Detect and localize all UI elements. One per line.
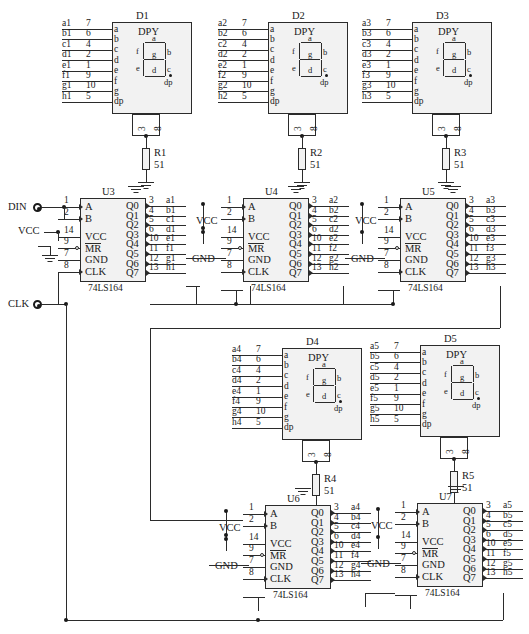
- display-pin-number-D5-6: 6: [394, 352, 399, 362]
- vcc-bus-u6: [226, 511, 227, 551]
- ic-pin-label-U3-B: B: [85, 214, 92, 225]
- display-pin-name-D2-g: g: [270, 87, 275, 97]
- resistor-value-R3: 51: [454, 160, 465, 171]
- ic-pin-label-U7-VCC: VCC: [422, 537, 444, 548]
- ic-pin-lead-U6-CLK: [243, 579, 265, 580]
- segment-label-a: a: [308, 34, 312, 43]
- net-label-g2: g2: [218, 81, 228, 91]
- din-terminal[interactable]: [33, 203, 42, 212]
- gnd-lead-bar-0: [186, 258, 226, 259]
- display-pin-name-D4-b: b: [284, 361, 289, 371]
- u6-data-h: [150, 520, 243, 521]
- clock-edge-arrow-U7: [416, 574, 420, 580]
- display-pin-number-D3-6: 6: [386, 29, 391, 39]
- ic-pin-lead-U6-B: [243, 526, 265, 527]
- display-common-pin-8-D1: 8: [154, 126, 164, 131]
- vcc-label-u4: VCC: [196, 216, 218, 227]
- net-label-c3: c3: [362, 40, 371, 50]
- display-pin-number-D5-4: 4: [394, 363, 399, 373]
- clk-junction-u6: [256, 618, 260, 622]
- ground-symbol-u4-top: [288, 186, 304, 195]
- ic-output-arrow-U7-Q7: [483, 575, 487, 581]
- gnd-label-u7: GND: [367, 559, 390, 570]
- ic-input-arrow-U4-A: [242, 204, 246, 210]
- ic-pin-number-U3-1: 1: [64, 196, 69, 206]
- display-pin-number-D1-5: 5: [86, 92, 91, 102]
- resistor-body-R1[interactable]: [142, 148, 150, 170]
- segment-bar: [313, 369, 314, 385]
- resistor-body-R3[interactable]: [442, 148, 450, 170]
- ic-out-lead-U4-Q7: [309, 273, 349, 274]
- vcc-junction-top-u4: [201, 202, 205, 206]
- ic-input-arrow-U7-B: [416, 521, 420, 527]
- display-pin-number-D3-5: 5: [386, 92, 391, 102]
- clk-bus-junction-bottom: [64, 618, 68, 622]
- ic-part-U4: 74LS164: [251, 284, 286, 294]
- display-pin-name-D2-e: e: [270, 66, 274, 76]
- resistor-wire-bottom-R2: [302, 170, 303, 182]
- vcc-drop-u3: [58, 232, 59, 241]
- clk-row-bottom: [258, 620, 410, 621]
- ic-out-lead-U3-Q7: [146, 273, 186, 274]
- display-common-pin-8-D3: 8: [454, 126, 464, 131]
- segment-label-a: a: [322, 360, 326, 369]
- display-pin-name-D1-f: f: [114, 77, 117, 87]
- display-pin-number-D4-5: 5: [256, 418, 261, 428]
- u5-q7-down: [500, 286, 501, 328]
- display-pin-name-D4-a: a: [284, 351, 288, 361]
- ic-pin-number-U3-14: 14: [64, 226, 74, 236]
- ic-pin-number-U4-7: 7: [227, 249, 232, 259]
- segment-bar: [451, 383, 452, 399]
- net-label-g3: g3: [362, 81, 372, 91]
- u7-clk-h: [395, 595, 417, 596]
- ic-pin-number-U4-8: 8: [227, 261, 232, 271]
- display-pin-number-D1-2: 2: [86, 50, 91, 60]
- clk-row-top: [236, 304, 393, 305]
- ic-pin-number-U4-9: 9: [227, 237, 232, 247]
- display-pin-number-D2-7: 7: [242, 19, 247, 29]
- u3-cascade: [186, 286, 200, 287]
- resistor-body-R4[interactable]: [312, 474, 320, 496]
- resistor-ref-R4: R4: [324, 474, 336, 485]
- gnd-wire-u3: [50, 246, 51, 255]
- net-label-d5: d5: [370, 373, 380, 383]
- resistor-body-R2[interactable]: [298, 148, 306, 170]
- u4-ab-junction: [201, 226, 205, 230]
- display-common-box-D4: [302, 440, 330, 462]
- display-pin-number-D3-7: 7: [386, 19, 391, 29]
- ic-pin-number-U7-7: 7: [401, 554, 406, 564]
- display-pin-number-D5-1: 1: [394, 384, 399, 394]
- display-common-pin-8-D2: 8: [310, 126, 320, 131]
- u6-clk-h: [243, 597, 265, 598]
- segment-bar: [143, 43, 144, 59]
- resistor-ref-R5: R5: [462, 471, 474, 482]
- ic-pin-number-U7-14: 14: [401, 531, 411, 541]
- ic-pin-number-U6-13: 13: [334, 570, 344, 580]
- segment-label-d: d: [152, 66, 156, 75]
- net-label-d4: d4: [232, 376, 242, 386]
- u5-clk-h: [378, 290, 400, 291]
- ic-part-U5: 74LS164: [408, 284, 443, 294]
- net-label-h2: h2: [218, 92, 228, 102]
- ic-pin-lead-U7-CLK: [395, 577, 417, 578]
- segment-label-a: a: [152, 34, 156, 43]
- segment-label-b: b: [337, 374, 341, 383]
- ic-pin-lead-U5-CLK: [378, 272, 400, 273]
- display-common-pin-3-D3: 3: [438, 126, 448, 131]
- display-pin-number-D3-1: 1: [386, 61, 391, 71]
- resistor-value-R4: 51: [324, 486, 335, 497]
- ic-pin-label-U7-A: A: [422, 507, 430, 518]
- segment-bar: [335, 386, 336, 402]
- vcc-bus-u4: [203, 204, 204, 244]
- display-pin-name-D4-g: g: [284, 413, 289, 423]
- clk-terminal[interactable]: [33, 300, 42, 309]
- ic-output-arrow-U3-Q7: [146, 270, 150, 276]
- resistor-wire-top-R5: [454, 459, 455, 471]
- gnd-lead-bar-2: [209, 565, 249, 566]
- ic-input-arrow-U7-A: [416, 509, 420, 515]
- net-label-b1: b1: [62, 29, 72, 39]
- net-label-d1: d1: [62, 50, 72, 60]
- display-pin-name-D3-dp: dp: [414, 97, 424, 107]
- display-pin-name-D1-c: c: [114, 45, 118, 55]
- ic-pin-number-U6-7: 7: [249, 556, 254, 566]
